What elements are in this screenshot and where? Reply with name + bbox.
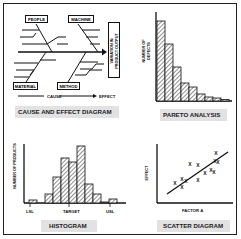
histogram-caption: HISTOGRAM xyxy=(41,220,97,232)
machine-box: MACHINE xyxy=(68,15,94,23)
cause-label: CAUSE xyxy=(47,94,62,99)
svg-text:X: X xyxy=(184,178,188,184)
method-box: METHOD xyxy=(57,82,80,90)
cause-effect-caption: CAUSE AND EFFECT DIAGRAM xyxy=(15,106,119,118)
svg-text:X: X xyxy=(188,161,192,167)
svg-text:X: X xyxy=(216,159,220,165)
target-tick: TARGET xyxy=(63,209,80,214)
people-box: PEOPLE xyxy=(25,15,48,23)
pareto-chart xyxy=(156,12,232,101)
usl-tick: USL xyxy=(106,209,114,214)
effect-box: VARIATION IN PRODUCT OUTPUT xyxy=(108,22,120,78)
svg-text:X: X xyxy=(180,184,184,190)
scatter-ylabel: EFFECT xyxy=(145,164,150,182)
histogram-ylabel: NUMBER OF PRODUCTS xyxy=(13,140,18,192)
svg-text:X: X xyxy=(173,180,177,186)
effect-label: EFFECT xyxy=(99,94,115,99)
scatter-xlabel: FACTOR A xyxy=(182,208,203,213)
pareto-ylabel: NUMBER OF DEFECTS xyxy=(142,38,151,64)
svg-text:X: X xyxy=(196,162,200,168)
scatter-chart: X X X X X X X X X X X X X xyxy=(157,144,233,203)
lsl-tick: LSL xyxy=(26,209,34,214)
effect-box-line2: PRODUCT OUTPUT xyxy=(115,25,120,77)
svg-text:X: X xyxy=(214,150,218,156)
svg-text:X: X xyxy=(212,169,216,175)
histogram-chart xyxy=(24,144,126,207)
pareto-caption: PARETO ANALYSIS xyxy=(160,109,227,121)
scatter-caption: SCATTER DIAGRAM xyxy=(157,220,230,232)
svg-text:X: X xyxy=(203,170,207,176)
svg-text:X: X xyxy=(196,177,200,183)
material-box: MATERIAL xyxy=(13,82,38,90)
